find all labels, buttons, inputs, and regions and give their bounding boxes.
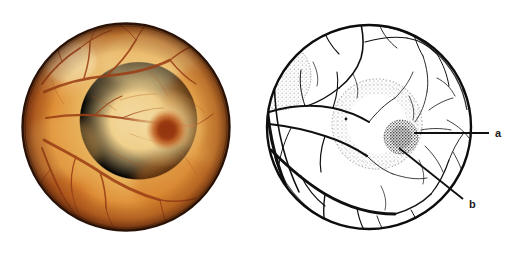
fovea-marker-dot	[345, 118, 348, 121]
label-b: b	[469, 198, 476, 210]
fundus-photograph-panel	[0, 0, 261, 256]
figure-root: a b Retinal fundus photograph and matchi…	[0, 0, 523, 256]
fundus-schematic-panel: a b	[261, 0, 523, 256]
fundus-photograph-image	[0, 0, 261, 256]
fundus-schematic-image: a b	[261, 0, 523, 256]
label-a: a	[495, 127, 502, 139]
schematic-contents	[261, 0, 523, 256]
